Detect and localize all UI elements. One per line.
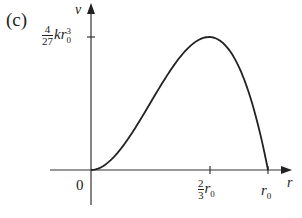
subscript: 0 xyxy=(267,191,272,201)
denominator: 27 xyxy=(42,36,53,47)
y-axis-label: v xyxy=(75,3,81,17)
numerator: 4 xyxy=(45,24,51,35)
y-axis-arrow-icon xyxy=(87,3,95,14)
fraction: 4 27 xyxy=(42,24,53,47)
y-tick-label: 4 27 kr30 xyxy=(42,24,71,47)
origin-label: 0 xyxy=(76,178,84,193)
x-axis-arrow-icon xyxy=(281,166,292,174)
x-axis-label: r xyxy=(287,176,292,190)
subscript: 0 xyxy=(210,189,215,199)
fraction: 2 3 xyxy=(198,178,204,201)
subscript: 0 xyxy=(67,36,72,45)
x-tick-label-two-thirds: 2 3 r0 xyxy=(198,178,215,201)
panel-label: (c) xyxy=(6,10,27,29)
cubic-curve xyxy=(91,37,268,170)
denominator: 3 xyxy=(198,190,204,201)
expr: kr xyxy=(54,26,67,42)
x-tick-label-r0: r0 xyxy=(261,183,271,201)
numerator: 2 xyxy=(198,178,204,189)
